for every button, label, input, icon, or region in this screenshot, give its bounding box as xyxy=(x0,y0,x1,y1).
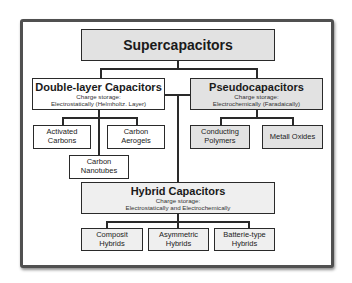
node-supercapacitors: Supercapacitors xyxy=(81,29,275,61)
node-storage-label: Charge storage: xyxy=(234,93,278,100)
node-label: Batterie-type Hybrids xyxy=(219,231,270,248)
node-carbon-aerogels: Carbon Aerogels xyxy=(107,125,165,149)
node-metall-oxides: Metall Oxides xyxy=(262,125,323,149)
node-title: Pseudocapacitors xyxy=(209,81,304,94)
node-storage-value: Electrostatically (Helmholtz. Layer) xyxy=(51,100,146,107)
connector-hybrid-horizontal xyxy=(106,221,249,223)
node-pseudocapacitors: Pseudocapacitors Charge storage: Electro… xyxy=(190,78,323,110)
connector-dl-up xyxy=(100,68,102,78)
connector-aerogels-up xyxy=(136,117,138,125)
node-label: Metall Oxides xyxy=(270,133,315,142)
node-label: Composit Hybrids xyxy=(92,231,132,248)
connector-pseudo-down xyxy=(256,110,258,117)
node-label: Carbon Nanotubes xyxy=(76,158,122,175)
node-storage-value: Electrochemically (Faradaically) xyxy=(213,100,300,107)
node-carbon-nanotubes: Carbon Nanotubes xyxy=(69,155,129,179)
node-storage-label: Charge storage: xyxy=(156,197,200,204)
node-storage-label: Charge storage: xyxy=(76,93,120,100)
connector-polymers-up xyxy=(220,117,222,125)
node-activated-carbons: Activated Carbons xyxy=(33,125,91,149)
connector-oxides-up xyxy=(292,117,294,125)
connector-hybrid-vertical xyxy=(177,94,179,182)
node-composit-hybrids: Composit Hybrids xyxy=(81,228,143,251)
node-storage-value: Electrostatically and Electrochemically xyxy=(126,204,231,211)
node-title: Double-layer Capacitors xyxy=(35,81,162,94)
connector-root-horizontal xyxy=(100,68,257,70)
connector-pseudo-up xyxy=(256,68,258,78)
node-title: Supercapacitors xyxy=(123,37,233,53)
connector-dl-horizontal xyxy=(62,117,136,119)
connector-composit-up xyxy=(106,221,108,228)
node-asymmetric-hybrids: Asymmetric Hybrids xyxy=(148,228,209,251)
node-label: Asymmetric Hybrids xyxy=(155,231,202,248)
node-title: Hybrid Capacitors xyxy=(131,185,226,198)
connector-batterie-up xyxy=(248,221,250,228)
node-label: Activated Carbons xyxy=(40,128,84,145)
node-double-layer-capacitors: Double-layer Capacitors Charge storage: … xyxy=(32,78,165,110)
node-label: Conducting Polymers xyxy=(195,128,245,145)
node-batterie-type-hybrids: Batterie-type Hybrids xyxy=(214,228,275,251)
node-hybrid-capacitors: Hybrid Capacitors Charge storage: Electr… xyxy=(81,182,275,214)
connector-pseudo-horizontal xyxy=(220,117,293,119)
node-conducting-polymers: Conducting Polymers xyxy=(190,125,250,149)
node-label: Carbon Aerogels xyxy=(116,128,156,145)
connector-activated-up xyxy=(62,117,64,125)
